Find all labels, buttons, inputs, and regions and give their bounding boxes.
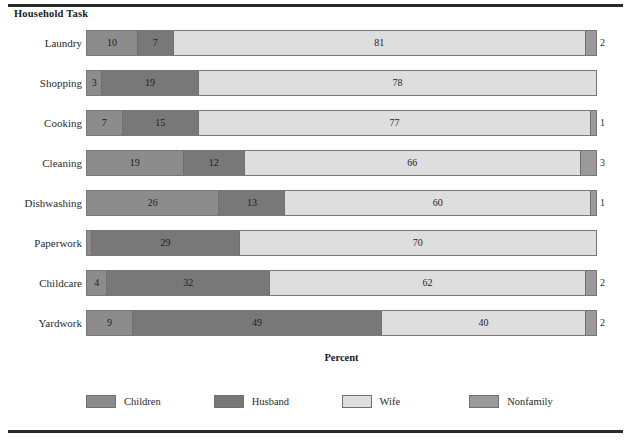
bar-segment-husband: 7: [138, 31, 174, 55]
bar-segment-nonfamily: 2: [586, 271, 596, 295]
bar-segment-husband: 15: [123, 111, 199, 135]
bar-segment-children: 9: [87, 311, 133, 335]
segment-value: 2: [600, 38, 605, 48]
segment-value: 66: [407, 158, 417, 168]
segment-value: 3: [600, 158, 605, 168]
legend-item-children: Children: [86, 395, 214, 408]
chart-row: Paperwork12970: [86, 230, 597, 256]
segment-value: 3: [92, 78, 97, 88]
x-axis-title: Percent: [86, 352, 597, 363]
stacked-bar: 31978: [86, 70, 597, 96]
bar-segment-husband: 49: [133, 311, 382, 335]
chart-row: Yardwork949402: [86, 310, 597, 336]
segment-value: 13: [247, 198, 257, 208]
category-label: Paperwork: [0, 230, 82, 256]
bar-segment-husband: 29: [92, 231, 240, 255]
segment-value: 15: [155, 118, 165, 128]
segment-value: 19: [130, 158, 140, 168]
legend-swatch: [86, 395, 116, 408]
category-label: Cooking: [0, 110, 82, 136]
segment-value: 62: [423, 278, 433, 288]
bar-segment-nonfamily: 2: [586, 311, 596, 335]
legend-item-husband: Husband: [214, 395, 342, 408]
bar-segment-children: 3: [87, 71, 102, 95]
segment-value: 9: [107, 318, 112, 328]
segment-value: 26: [148, 198, 158, 208]
category-label: Dishwashing: [0, 190, 82, 216]
segment-value: 1: [600, 118, 605, 128]
category-label: Childcare: [0, 270, 82, 296]
segment-value: 29: [160, 238, 170, 248]
stacked-bar: 12970: [86, 230, 597, 256]
bar-segment-wife: 70: [240, 231, 596, 255]
segment-value: 49: [252, 318, 262, 328]
legend-label: Children: [124, 396, 161, 407]
bar-segment-wife: 78: [199, 71, 596, 95]
bar-segment-wife: 77: [199, 111, 591, 135]
figure-container: Household Task Laundry107812Shopping3197…: [0, 0, 631, 446]
category-label: Shopping: [0, 70, 82, 96]
legend-swatch: [469, 395, 499, 408]
segment-value: 77: [389, 118, 399, 128]
chart-row: Shopping31978: [86, 70, 597, 96]
category-label: Laundry: [0, 30, 82, 56]
segment-value: 40: [479, 318, 489, 328]
segment-value: 32: [183, 278, 193, 288]
chart-row: Cooking715771: [86, 110, 597, 136]
chart-legend: ChildrenHusbandWifeNonfamily: [86, 390, 597, 412]
stacked-bar: 107812: [86, 30, 597, 56]
segment-value: 78: [392, 78, 402, 88]
chart-row: Dishwashing2613601: [86, 190, 597, 216]
bar-segment-nonfamily: 3: [581, 151, 596, 175]
bar-segment-children: 26: [87, 191, 219, 215]
bar-segment-children: 19: [87, 151, 184, 175]
segment-value: 70: [413, 238, 423, 248]
plot-area: Laundry107812Shopping31978Cooking715771C…: [86, 28, 597, 348]
category-label: Yardwork: [0, 310, 82, 336]
stacked-bar: 715771: [86, 110, 597, 136]
legend-label: Husband: [252, 396, 289, 407]
chart-row: Laundry107812: [86, 30, 597, 56]
bar-segment-wife: 81: [174, 31, 586, 55]
bar-segment-wife: 40: [382, 311, 586, 335]
legend-swatch: [342, 395, 372, 408]
bar-segment-husband: 19: [102, 71, 199, 95]
segment-value: 2: [600, 318, 605, 328]
bar-segment-husband: 32: [107, 271, 270, 295]
stacked-bar: 949402: [86, 310, 597, 336]
chart-row: Childcare432622: [86, 270, 597, 296]
segment-value: 2: [600, 278, 605, 288]
legend-item-nonfamily: Nonfamily: [469, 395, 597, 408]
bar-segment-nonfamily: 1: [591, 111, 596, 135]
segment-value: 1: [600, 198, 605, 208]
segment-value: 10: [107, 38, 117, 48]
category-label: Cleaning: [0, 150, 82, 176]
legend-label: Wife: [380, 396, 401, 407]
stacked-bar: 432622: [86, 270, 597, 296]
y-axis-title: Household Task: [14, 8, 88, 19]
segment-value: 4: [94, 278, 99, 288]
segment-value: 81: [374, 38, 384, 48]
stacked-bar: 2613601: [86, 190, 597, 216]
bar-segment-children: 10: [87, 31, 138, 55]
segment-value: 60: [433, 198, 443, 208]
bar-segment-husband: 13: [219, 191, 285, 215]
bar-segment-wife: 60: [285, 191, 590, 215]
bar-segment-nonfamily: 1: [591, 191, 596, 215]
bar-segment-wife: 62: [270, 271, 586, 295]
bar-segment-nonfamily: 2: [586, 31, 596, 55]
chart-row: Cleaning1912663: [86, 150, 597, 176]
segment-value: 7: [102, 118, 107, 128]
bar-segment-wife: 66: [245, 151, 581, 175]
top-rule: [8, 4, 623, 7]
bar-segment-children: 4: [87, 271, 107, 295]
legend-label: Nonfamily: [507, 396, 553, 407]
segment-value: 19: [145, 78, 155, 88]
legend-item-wife: Wife: [342, 395, 470, 408]
segment-value: 7: [153, 38, 158, 48]
legend-swatch: [214, 395, 244, 408]
stacked-bar: 1912663: [86, 150, 597, 176]
bar-segment-children: 7: [87, 111, 123, 135]
bottom-rule: [8, 430, 623, 433]
bar-segment-husband: 12: [184, 151, 245, 175]
